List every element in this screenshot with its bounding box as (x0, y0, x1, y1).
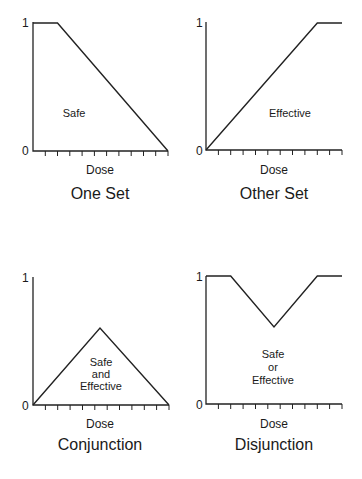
panel-title: Other Set (240, 185, 309, 202)
x-ticks (218, 150, 342, 155)
y-max-label: 1 (196, 270, 203, 284)
axes (206, 22, 342, 150)
panel-conjunction: 1 0 Safe and Effective Dose Conjunction (22, 271, 169, 453)
x-ticks (218, 404, 342, 409)
x-axis-label: Dose (86, 417, 114, 431)
region-label: Effective (269, 107, 311, 119)
panel-title: Conjunction (58, 436, 143, 453)
x-axis-label: Dose (260, 163, 288, 177)
svg-text:Safe: Safe (90, 356, 113, 368)
y-min-label: 0 (196, 398, 203, 412)
panel-one-set: 1 0 Safe Dose One Set (22, 16, 168, 202)
region-label: Safe or Effective (252, 348, 294, 386)
svg-text:and: and (92, 368, 110, 380)
y-max-label: 1 (22, 16, 29, 30)
panel-title: One Set (71, 185, 130, 202)
axes (33, 22, 168, 151)
svg-text:Effective: Effective (252, 374, 294, 386)
fuzzy-dose-diagram: 1 0 Safe Dose One Set 1 0 (0, 0, 362, 479)
x-axis-label: Dose (260, 417, 288, 431)
svg-text:or: or (268, 361, 278, 373)
x-ticks (45, 405, 169, 410)
y-max-label: 1 (196, 16, 203, 30)
y-min-label: 0 (22, 399, 29, 413)
y-max-label: 1 (22, 271, 29, 285)
membership-curve (206, 276, 342, 327)
y-min-label: 0 (196, 144, 203, 158)
region-label: Safe and Effective (80, 356, 122, 392)
svg-text:Effective: Effective (80, 380, 122, 392)
y-min-label: 0 (22, 144, 29, 158)
membership-curve (206, 23, 342, 150)
panel-other-set: 1 0 Effective Dose Other Set (196, 16, 342, 202)
x-ticks (45, 151, 168, 156)
x-axis-label: Dose (86, 163, 114, 177)
panel-disjunction: 1 0 Safe or Effective Dose Disjunction (196, 270, 342, 453)
membership-curve (33, 23, 168, 151)
panel-title: Disjunction (235, 436, 313, 453)
svg-text:Safe: Safe (262, 348, 285, 360)
region-label: Safe (63, 107, 86, 119)
